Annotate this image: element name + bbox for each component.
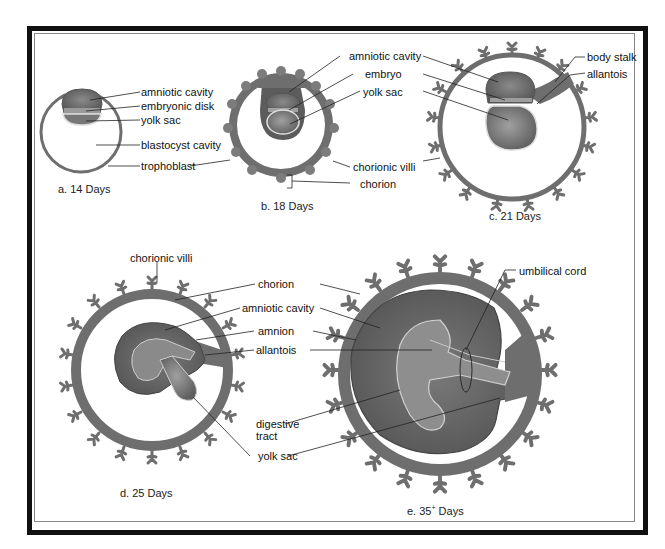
label-d-chorion: chorion xyxy=(258,278,294,290)
label-digestive-tract-line2: tract xyxy=(256,430,277,442)
panel-d-diagram xyxy=(60,262,255,463)
label-digestive-tract-line1: digestive xyxy=(256,418,299,430)
label-a-trophoblast: trophoblast xyxy=(141,160,195,172)
caption-b: b. 18 Days xyxy=(261,200,314,212)
label-d-allantois: allantois xyxy=(256,344,296,356)
caption-e-suffix: Days xyxy=(436,505,464,517)
label-b-yolk-sac: yolk sac xyxy=(363,86,403,98)
label-a-blastocyst-cavity: blastocyst cavity xyxy=(141,139,221,151)
label-a-embryonic-disk: embryonic disk xyxy=(141,100,214,112)
caption-a: a. 14 Days xyxy=(58,183,111,195)
caption-d: d. 25 Days xyxy=(120,487,173,499)
label-d-yolk-sac: yolk sac xyxy=(258,450,298,462)
label-b-chorionic-villi: chorionic villi xyxy=(353,161,415,173)
caption-c: c. 21 Days xyxy=(489,210,541,222)
label-d-chorionic-villi: chorionic villi xyxy=(130,252,192,264)
label-a-yolk-sac: yolk sac xyxy=(141,114,181,126)
label-b-embryo: embryo xyxy=(365,68,402,80)
panel-c-diagram xyxy=(423,43,596,211)
label-a-amniotic-cavity: amniotic cavity xyxy=(141,86,213,98)
panel-b-diagram xyxy=(223,56,360,188)
label-b-amniotic-cavity: amniotic cavity xyxy=(349,50,421,62)
panel-e-diagram xyxy=(285,256,556,491)
label-c-allantois: allantois xyxy=(587,68,627,80)
caption-e: e. 35+ Days xyxy=(407,504,464,517)
caption-e-prefix: e. 35 xyxy=(407,505,431,517)
label-e-umbilical-cord: umbilical cord xyxy=(519,265,586,277)
label-d-amniotic-cavity: amniotic cavity xyxy=(242,302,314,314)
label-d-amnion: amnion xyxy=(258,325,294,337)
label-c-body-stalk: body stalk xyxy=(587,51,637,63)
label-b-chorion: chorion xyxy=(360,178,396,190)
